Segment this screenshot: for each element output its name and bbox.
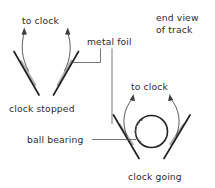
ball-bearing bbox=[135, 116, 167, 148]
ball-bearing-outline bbox=[136, 116, 168, 148]
annotation-ball-bearing: ball bearing bbox=[27, 134, 136, 145]
diagram-clock-stopped: to clock clock stopped bbox=[9, 15, 79, 114]
lead-wires-stopped bbox=[22, 32, 70, 71]
lead-wires-going bbox=[124, 99, 179, 136]
arrowhead-right-going bbox=[168, 94, 173, 101]
rail-right bbox=[54, 52, 79, 96]
rails-going bbox=[114, 115, 191, 159]
ball-bearing-highlight bbox=[135, 120, 143, 144]
label-clock-stopped: clock stopped bbox=[9, 103, 75, 114]
foil-strips-stopped bbox=[21, 60, 73, 86]
lead-arrows-going bbox=[130, 94, 173, 101]
label-end-view-line2: of track bbox=[156, 24, 193, 35]
lead-wire-right-going bbox=[171, 99, 179, 136]
label-to-clock-bottom: to clock bbox=[131, 81, 168, 92]
caption-end-view: end view of track bbox=[156, 12, 199, 35]
arrowhead-right bbox=[65, 28, 70, 35]
lead-arrows-stopped bbox=[22, 28, 71, 35]
label-metal-foil: metal foil bbox=[87, 36, 132, 47]
rail-left bbox=[14, 52, 39, 96]
foil-strip-right bbox=[58, 60, 73, 86]
diagram-clock-going: to clock clock going bbox=[114, 81, 191, 182]
rail-right-going bbox=[164, 115, 190, 159]
diagram-svg: to clock clock stopped metal foil end vi… bbox=[0, 0, 215, 188]
rail-left-going bbox=[114, 115, 140, 159]
label-to-clock-top: to clock bbox=[22, 15, 59, 26]
foil-strip-left bbox=[21, 61, 36, 87]
figure-canvas: to clock clock stopped metal foil end vi… bbox=[0, 0, 215, 188]
annotation-metal-foil: metal foil bbox=[73, 36, 132, 124]
lead-wire-left-going bbox=[124, 99, 132, 136]
label-end-view-line1: end view bbox=[156, 12, 199, 23]
arrowhead-left bbox=[22, 28, 27, 35]
label-ball-bearing: ball bearing bbox=[27, 134, 83, 145]
label-clock-going: clock going bbox=[128, 171, 182, 182]
